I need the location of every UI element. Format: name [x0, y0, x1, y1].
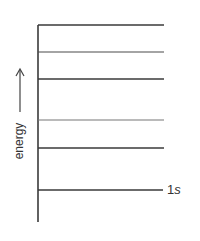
level-label-1s: 1s: [167, 182, 181, 197]
level-label-orbital: s: [174, 182, 181, 197]
energy-label-text: energy: [12, 122, 26, 159]
energy-level-diagram: [0, 0, 200, 241]
energy-axis-label: energy: [9, 113, 29, 168]
